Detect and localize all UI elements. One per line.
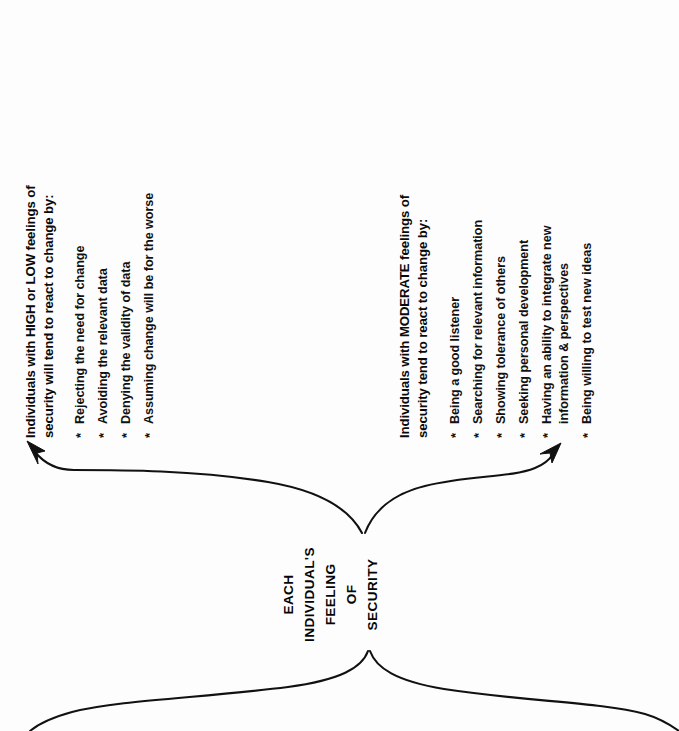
branch-moderate-bullets: *Being a good listener *Searching for re… (447, 220, 601, 438)
list-item: *Seeking personal development (516, 220, 534, 438)
bullet-marker-icon: * (447, 424, 465, 438)
branch-moderate-heading: Individuals with MODERATE feelings of se… (396, 195, 432, 438)
bullet-list: *Being a good listener *Searching for re… (447, 220, 596, 438)
inflow-right-curve (370, 651, 679, 731)
center-node: EACH INDIVIDUAL'S FEELING OF SECURITY (278, 532, 383, 657)
list-item-label: Being a good listener (447, 297, 464, 424)
list-item-label-continued: information & perspectives (556, 226, 573, 424)
diagram-canvas: Individuals with HIGH or LOW feelings of… (0, 0, 679, 731)
list-item: *Assuming change will be for the worse (141, 193, 159, 438)
list-item-label: Assuming change will be for the worse (141, 193, 158, 424)
branch-moderate-heading-line-2: security tend to react to change by: (414, 195, 432, 438)
center-node-line-2: INDIVIDUAL'S (299, 532, 320, 657)
arrow-to-high-low-curve (35, 452, 362, 533)
bullet-marker-icon: * (579, 424, 597, 438)
center-node-line-1: EACH (278, 532, 299, 657)
list-item-label: Searching for relevant information (470, 220, 487, 424)
list-item: *Avoiding the relevant data (95, 193, 113, 438)
list-item: *Having an ability to integrate newinfor… (539, 220, 574, 438)
list-item: *Being willing to test new ideas (579, 220, 597, 438)
arrow-to-high-low-head (27, 441, 45, 464)
list-item-label: Being willing to test new ideas (579, 243, 596, 424)
bullet-marker-icon: * (72, 424, 90, 438)
bullet-marker-icon: * (539, 424, 557, 438)
bullet-marker-icon: * (470, 424, 488, 438)
list-item: *Searching for relevant information (470, 220, 488, 438)
list-item-label: Rejecting the need for change (72, 246, 89, 424)
list-item-label: Showing tolerance of others (493, 256, 510, 424)
list-item: *Being a good listener (447, 220, 465, 438)
center-node-line-3: FEELING (320, 532, 341, 657)
bullet-list: *Rejecting the need for change *Avoiding… (72, 193, 159, 438)
bullet-marker-icon: * (141, 424, 159, 438)
bullet-marker-icon: * (516, 424, 534, 438)
bullet-marker-icon: * (95, 424, 113, 438)
list-item: *Rejecting the need for change (72, 193, 90, 438)
list-item-label: Denying the validity of data (118, 262, 135, 424)
center-node-line-5: SECURITY (362, 532, 383, 657)
branch-high-low-heading-line-2: security will tend to react to change by… (40, 186, 58, 438)
list-item: *Denying the validity of data (118, 193, 136, 438)
branch-high-low-bullets: *Rejecting the need for change *Avoiding… (72, 193, 164, 438)
branch-high-low-heading: Individuals with HIGH or LOW feelings of… (22, 186, 58, 438)
list-item-label: Having an ability to integrate new (539, 226, 556, 424)
branch-high-low-heading-line-1: Individuals with HIGH or LOW feelings of (22, 186, 40, 438)
arrow-to-moderate-curve (365, 454, 553, 533)
list-item: *Showing tolerance of others (493, 220, 511, 438)
inflow-left-curve (30, 651, 368, 731)
bullet-marker-icon: * (493, 424, 511, 438)
bullet-marker-icon: * (118, 424, 136, 438)
center-node-line-4: OF (341, 532, 362, 657)
list-item-label: Seeking personal development (516, 240, 533, 424)
arrow-to-moderate-head (540, 443, 561, 463)
list-item-label: Avoiding the relevant data (95, 268, 112, 424)
branch-moderate-heading-line-1: Individuals with MODERATE feelings of (396, 195, 414, 438)
